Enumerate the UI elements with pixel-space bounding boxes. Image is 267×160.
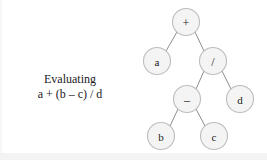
edge-minus-to-c (196, 109, 205, 126)
node-c: c (201, 123, 228, 150)
node-minus: – (174, 86, 201, 113)
node-d: d (227, 86, 254, 113)
node-label-root: + (183, 16, 190, 30)
node-label-minus: – (183, 93, 191, 107)
node-root-plus: + (173, 9, 200, 36)
edge-root-to-a (166, 32, 177, 51)
node-label-d: d (237, 94, 243, 106)
node-a: a (144, 48, 171, 75)
node-divide: / (200, 48, 227, 75)
expression-tree-figure: Evaluating a + (b – c) / d + a / (0, 0, 267, 160)
tree-nodes: + a / – d b (144, 9, 254, 150)
edge-divide-to-d (222, 71, 231, 89)
node-b: b (148, 123, 175, 150)
edge-minus-to-b (170, 109, 178, 126)
edge-divide-to-minus (196, 71, 204, 89)
node-label-c: c (212, 131, 217, 143)
edge-root-to-divide (195, 32, 204, 51)
tree-diagram: + a / – d b (0, 0, 267, 160)
node-label-a: a (155, 56, 160, 68)
tree-edges (166, 32, 231, 126)
node-label-b: b (158, 131, 164, 143)
